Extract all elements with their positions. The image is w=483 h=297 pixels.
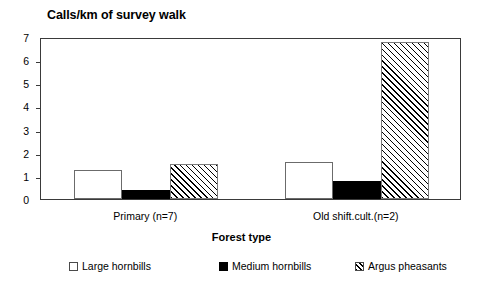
legend-swatch-medium-icon: [219, 262, 228, 271]
y-tick-mark: [36, 62, 41, 63]
bar-medium-hornbills-2: [333, 181, 381, 200]
y-tick-label: 1: [23, 172, 29, 183]
legend-entry-argus-pheasants[interactable]: Argus pheasants: [355, 261, 447, 272]
bar-argus-pheasants-1: [170, 164, 218, 199]
chart-title: Calls/km of survey walk: [47, 8, 186, 22]
x-tick-label: Old shift.cult.(n=2): [313, 210, 399, 222]
legend-entry-medium-hornbills[interactable]: Medium hornbills: [219, 261, 311, 272]
chart-figure: Calls/km of survey walk 01234567 Primary…: [0, 0, 483, 297]
legend-swatch-argus-icon: [355, 262, 364, 271]
bar-large-hornbills-1: [74, 170, 122, 199]
legend-label: Large hornbills: [82, 261, 151, 272]
plot-area: [40, 38, 461, 200]
y-tick-label: 7: [23, 33, 29, 44]
y-tick-mark: [36, 155, 41, 156]
legend-entry-large-hornbills[interactable]: Large hornbills: [69, 261, 151, 272]
legend-swatch-large-icon: [69, 262, 78, 271]
y-tick-label: 6: [23, 56, 29, 67]
y-axis: 01234567: [0, 30, 34, 210]
y-tick-label: 4: [23, 102, 29, 113]
y-tick-mark: [36, 178, 41, 179]
y-tick-label: 2: [23, 149, 29, 160]
y-tick-mark: [36, 108, 41, 109]
legend-label: Medium hornbills: [232, 261, 311, 272]
y-tick-label: 3: [23, 126, 29, 137]
y-tick-label: 5: [23, 79, 29, 90]
x-axis-title: Forest type: [0, 231, 483, 243]
bar-large-hornbills-2: [285, 162, 333, 199]
y-tick-mark: [36, 85, 41, 86]
bar-argus-pheasants-2: [381, 42, 429, 199]
y-tick-mark: [36, 132, 41, 133]
chart-legend: Large hornbillsMedium hornbillsArgus phe…: [0, 261, 483, 283]
legend-label: Argus pheasants: [368, 261, 447, 272]
bar-medium-hornbills-1: [122, 190, 170, 199]
x-tick-label: Primary (n=7): [113, 210, 177, 222]
y-tick-label: 0: [23, 195, 29, 206]
